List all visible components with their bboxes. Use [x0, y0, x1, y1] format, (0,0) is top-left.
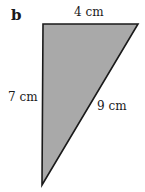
part-label: b — [11, 8, 22, 23]
top-side-label: 4 cm — [74, 6, 104, 18]
left-side-label: 7 cm — [8, 91, 38, 103]
triangle-diagram: b 4 cm 7 cm 9 cm — [0, 0, 145, 192]
hypotenuse-label: 9 cm — [97, 100, 127, 112]
